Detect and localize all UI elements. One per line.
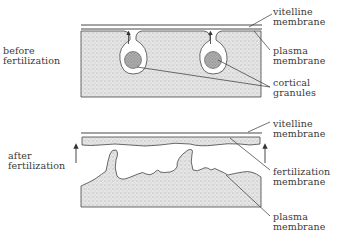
stage-label-after: after fertilization xyxy=(8,151,65,171)
panel-after xyxy=(76,122,270,216)
label-plasma-membrane-before: plasma membrane xyxy=(273,46,325,66)
label-cortical-granules: cortical granules xyxy=(273,78,316,98)
egg-cytoplasm-before xyxy=(81,31,261,97)
stage-label-line: fertilization xyxy=(8,161,65,171)
label-vitelline-membrane-after: vitelline membrane xyxy=(273,119,325,139)
label-line: granules xyxy=(273,88,316,98)
stage-label-line: fertilization xyxy=(3,56,60,66)
panel-before xyxy=(81,14,272,97)
egg-cytoplasm-after xyxy=(81,150,261,208)
label-vitelline-membrane-before: vitelline membrane xyxy=(273,7,325,27)
stage-label-before: before fertilization xyxy=(3,46,60,66)
label-plasma-membrane-after: plasma membrane xyxy=(273,212,325,232)
cortical-granule-left xyxy=(125,52,142,69)
leader-vitelline-after xyxy=(248,122,270,132)
cortical-reaction-diagram: before fertilization vitelline membrane … xyxy=(0,0,341,239)
cortical-granule-right xyxy=(205,52,222,69)
label-line: membrane xyxy=(273,17,325,27)
label-line: membrane xyxy=(273,129,325,139)
label-line: membrane xyxy=(273,177,330,187)
fertilization-membrane-band xyxy=(82,137,260,146)
label-line: membrane xyxy=(273,56,325,66)
label-fertilization-membrane: fertilization membrane xyxy=(273,167,330,187)
label-line: membrane xyxy=(273,222,325,232)
